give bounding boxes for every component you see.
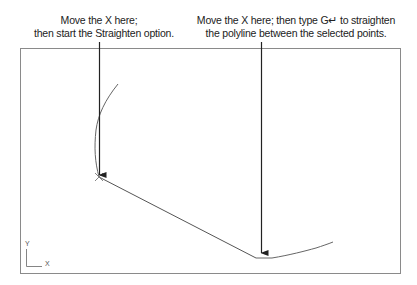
polyline-arc-segment[interactable] — [95, 84, 118, 177]
ucs-y-label: Y — [25, 240, 30, 247]
drawing-canvas — [0, 0, 417, 285]
ucs-icon — [27, 249, 43, 267]
polyline-straight-segment[interactable] — [99, 177, 256, 258]
drawing-area-frame — [21, 49, 401, 274]
ucs-x-label: X — [45, 260, 50, 267]
polyline-bottom-segment[interactable] — [256, 242, 333, 258]
